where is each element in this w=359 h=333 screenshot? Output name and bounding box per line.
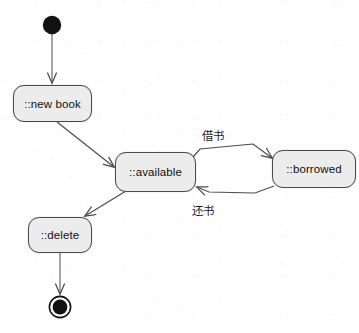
state-new-book[interactable]: ::new book <box>13 85 92 122</box>
state-new-book-label: ::new book <box>24 98 81 110</box>
transition-borrowed-to-available <box>197 186 274 193</box>
state-borrowed-label: ::borrowed <box>286 163 341 175</box>
state-borrowed[interactable]: ::borrowed <box>272 150 356 188</box>
initial-state-node[interactable] <box>38 11 66 39</box>
transition-available-to-delete <box>85 191 126 216</box>
state-delete-label: ::delete <box>41 229 80 241</box>
state-diagram-canvas: ::new book ::available ::borrowed ::dele… <box>0 0 359 333</box>
transition-new-book-to-available <box>57 122 114 167</box>
final-state-node[interactable] <box>46 293 74 321</box>
transition-available-to-borrowed <box>193 144 272 158</box>
state-available-label: ::available <box>129 166 182 178</box>
transition-label-return: 还书 <box>192 202 214 218</box>
state-delete[interactable]: ::delete <box>28 217 92 253</box>
state-available[interactable]: ::available <box>115 152 196 192</box>
transition-label-borrow: 借书 <box>202 127 224 143</box>
